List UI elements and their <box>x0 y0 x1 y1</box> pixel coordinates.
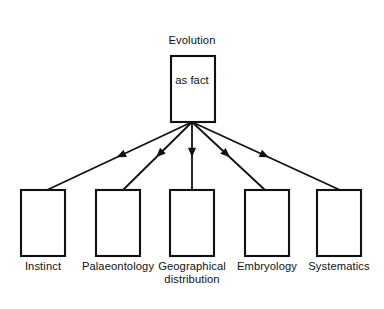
diagram-svg-layer <box>0 0 384 309</box>
leaf-node-box-group <box>21 190 361 256</box>
leaf-node-box <box>170 190 214 256</box>
connector-arrowhead <box>115 150 127 161</box>
root-node-box <box>171 56 215 122</box>
diagram-canvas: Evolution as fact InstinctPalaeontologyG… <box>0 0 384 309</box>
connector-arrowhead <box>259 150 271 161</box>
leaf-node-box <box>96 190 140 256</box>
leaf-node-box <box>317 190 361 256</box>
connector-group <box>47 122 340 190</box>
leaf-node-box <box>21 190 65 256</box>
leaf-node-box <box>245 190 289 256</box>
connector-arrowhead <box>188 148 196 158</box>
